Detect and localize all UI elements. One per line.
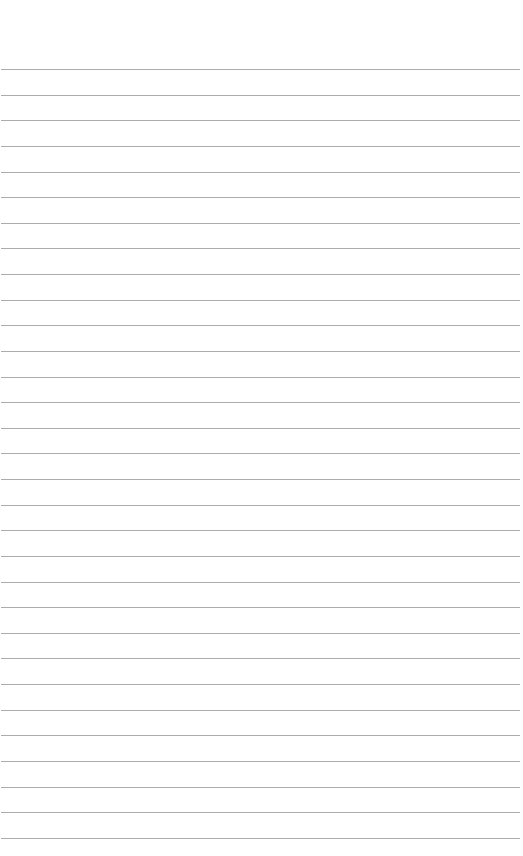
ruled-line	[1, 120, 520, 121]
ruled-line	[1, 69, 520, 70]
lined-paper-page	[0, 0, 523, 856]
ruled-line	[1, 325, 520, 326]
ruled-line	[1, 223, 520, 224]
ruled-line	[1, 735, 520, 736]
ruled-line	[1, 274, 520, 275]
ruled-line	[1, 607, 520, 608]
ruled-line	[1, 761, 520, 762]
ruled-line	[1, 479, 520, 480]
ruled-line	[1, 197, 520, 198]
ruled-line	[1, 402, 520, 403]
ruled-line	[1, 351, 520, 352]
ruled-line	[1, 95, 520, 96]
ruled-line	[1, 684, 520, 685]
ruled-line	[1, 172, 520, 173]
ruled-line	[1, 556, 520, 557]
ruled-line	[1, 658, 520, 659]
ruled-line	[1, 838, 520, 839]
ruled-line	[1, 300, 520, 301]
ruled-line	[1, 377, 520, 378]
ruled-line	[1, 453, 520, 454]
ruled-line	[1, 248, 520, 249]
ruled-line	[1, 582, 520, 583]
ruled-line	[1, 787, 520, 788]
ruled-line	[1, 146, 520, 147]
ruled-line	[1, 505, 520, 506]
ruled-line	[1, 710, 520, 711]
ruled-line	[1, 633, 520, 634]
ruled-line	[1, 812, 520, 813]
ruled-line	[1, 530, 520, 531]
ruled-line	[1, 428, 520, 429]
